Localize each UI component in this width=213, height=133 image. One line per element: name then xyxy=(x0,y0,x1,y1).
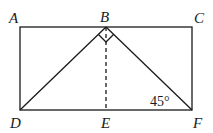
label-a: A xyxy=(8,10,19,26)
label-b: B xyxy=(100,9,109,25)
segment-db xyxy=(20,27,106,110)
label-d: D xyxy=(9,115,21,131)
angle-label-45: 45° xyxy=(150,94,170,109)
label-c: C xyxy=(194,10,205,26)
label-f: F xyxy=(192,115,203,131)
label-e: E xyxy=(100,115,110,131)
segment-bf xyxy=(106,27,192,110)
geometry-diagram: A B C D E F 45° xyxy=(0,0,213,133)
